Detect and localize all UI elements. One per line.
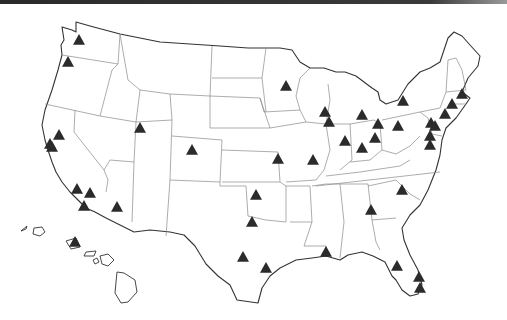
- hawaii: [21, 226, 137, 303]
- hawaii-kauai: [33, 227, 45, 236]
- hawaii-molokai: [84, 251, 96, 256]
- hawaii-lanai: [93, 258, 99, 264]
- us-map: [0, 0, 507, 320]
- hawaii-big-island: [115, 272, 137, 303]
- hawaii-maui: [100, 254, 114, 266]
- hawaii-kauai-niihau: [21, 226, 27, 231]
